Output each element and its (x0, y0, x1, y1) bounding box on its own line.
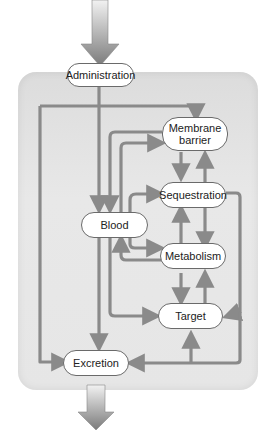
input-arrow-icon (81, 0, 119, 66)
blood-node: Blood (81, 212, 148, 238)
membrane-label-line2: barrier (179, 134, 211, 146)
membrane-label-line1: Membrane (169, 122, 222, 134)
target-node: Target (158, 303, 223, 329)
membrane-barrier-node: Membrane barrier (162, 117, 228, 151)
metabolism-node: Metabolism (160, 243, 226, 269)
administration-node: Administration (67, 63, 134, 87)
excretion-node: Excretion (63, 350, 129, 376)
output-arrow-icon (78, 385, 114, 430)
blood-label: Blood (100, 219, 128, 231)
metabolism-label: Metabolism (165, 250, 221, 262)
sequestration-label: Sequestration (159, 189, 227, 201)
sequestration-node: Sequestration (160, 182, 226, 208)
target-label: Target (175, 310, 206, 322)
excretion-label: Excretion (73, 357, 119, 369)
administration-label: Administration (66, 69, 136, 81)
